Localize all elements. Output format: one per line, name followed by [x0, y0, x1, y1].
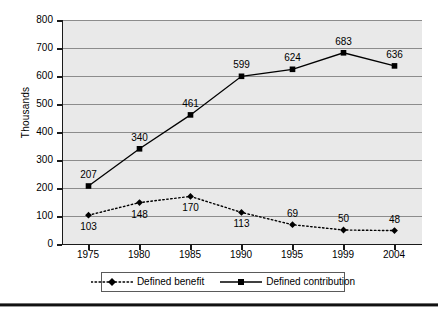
y-tick-mark-800	[57, 20, 62, 22]
y-tick-label-600: 600	[13, 71, 53, 81]
data-point-label: 103	[72, 222, 106, 232]
data-point-label: 461	[174, 99, 208, 109]
chart-legend[interactable]: Defined benefit Defined contribution	[101, 272, 345, 292]
data-point-label: 636	[378, 50, 412, 60]
y-tick-mark-200	[57, 188, 62, 190]
data-point-label: 599	[225, 60, 259, 70]
diamond-icon	[91, 277, 133, 287]
bottom-divider	[0, 303, 438, 307]
y-tick-label-400: 400	[13, 127, 53, 137]
data-point-label: 113	[225, 219, 259, 229]
y-tick-label-200: 200	[13, 183, 53, 193]
data-point-label: 50	[327, 214, 361, 224]
plot-area	[62, 20, 422, 245]
data-point-label: 624	[276, 53, 310, 63]
y-tick-mark-100	[57, 216, 62, 218]
y-tick-mark-300	[57, 160, 62, 162]
y-tick-mark-400	[57, 132, 62, 134]
y-tick-label-800: 800	[13, 15, 53, 25]
legend-item-defined-benefit[interactable]: Defined benefit	[91, 277, 204, 287]
data-point-label: 683	[327, 37, 361, 47]
gridline-600	[63, 76, 422, 77]
data-point-label: 48	[378, 215, 412, 225]
x-tick-label-1980: 1980	[117, 250, 161, 260]
y-tick-label-300: 300	[13, 155, 53, 165]
data-point-label: 207	[72, 170, 106, 180]
gridline-500	[63, 104, 422, 105]
data-point-label: 69	[276, 209, 310, 219]
gridline-800	[63, 20, 422, 21]
data-point-label: 170	[174, 203, 208, 213]
gridline-100	[63, 216, 422, 217]
data-point-label: 340	[123, 133, 157, 143]
x-tick-label-1995: 1995	[270, 250, 314, 260]
square-icon	[220, 277, 262, 287]
y-tick-mark-600	[57, 76, 62, 78]
x-tick-label-1975: 1975	[66, 250, 110, 260]
y-tick-label-100: 100	[13, 211, 53, 221]
chart-figure: Thousands 800 700 600 500 400 300 200 10…	[0, 0, 438, 313]
x-tick-label-1985: 1985	[168, 250, 212, 260]
legend-label-defined-contribution: Defined contribution	[266, 277, 355, 287]
y-tick-mark-500	[57, 104, 62, 106]
x-tick-label-1999: 1999	[321, 250, 365, 260]
gridline-700	[63, 48, 422, 49]
x-tick-label-1990: 1990	[219, 250, 263, 260]
legend-label-defined-benefit: Defined benefit	[137, 277, 204, 287]
y-tick-label-500: 500	[13, 99, 53, 109]
y-tick-mark-0	[57, 244, 62, 246]
gridline-400	[63, 132, 422, 133]
gridline-200	[63, 188, 422, 189]
data-point-label: 148	[123, 210, 157, 220]
x-tick-label-2004: 2004	[372, 250, 416, 260]
y-tick-label-0: 0	[13, 239, 53, 249]
legend-item-defined-contribution[interactable]: Defined contribution	[220, 277, 355, 287]
gridline-300	[63, 160, 422, 161]
y-tick-mark-700	[57, 48, 62, 50]
y-tick-label-700: 700	[13, 43, 53, 53]
